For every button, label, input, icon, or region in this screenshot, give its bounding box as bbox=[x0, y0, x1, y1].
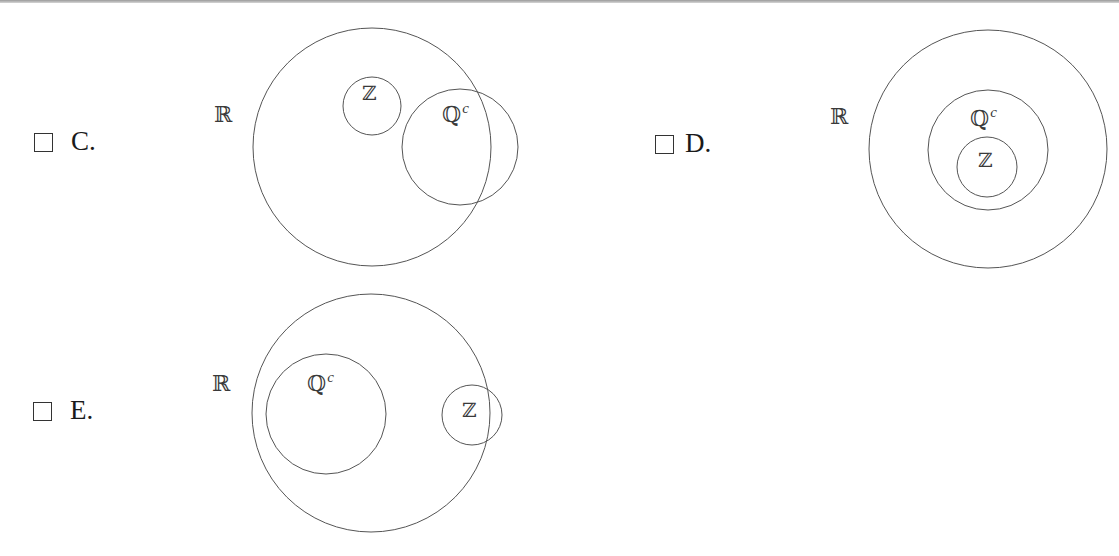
diagram-d-complement-superscript: c bbox=[990, 104, 997, 120]
diagram-c-real-label: ℝ bbox=[214, 104, 232, 126]
diagram-d-irrationals-label: ℚc bbox=[970, 108, 997, 130]
diagram-c-integers-label: ℤ bbox=[362, 83, 377, 103]
venn-diagrams bbox=[0, 0, 1119, 556]
diagram-c-irrationals-symbol: ℚ bbox=[442, 102, 461, 127]
option-d-checkbox[interactable] bbox=[655, 135, 674, 154]
diagram-e-real-label: ℝ bbox=[212, 373, 230, 395]
diagram-e-real-circle bbox=[252, 294, 490, 532]
option-c[interactable]: C. bbox=[34, 127, 96, 155]
diagram-c bbox=[253, 28, 518, 266]
option-e-label: E. bbox=[70, 397, 93, 424]
diagram-c-irrationals-label: ℚc bbox=[442, 104, 469, 126]
option-d-label: D. bbox=[685, 130, 711, 157]
diagram-c-complement-superscript: c bbox=[462, 100, 469, 116]
diagram-d-irrationals-symbol: ℚ bbox=[970, 106, 989, 131]
diagram-c-real-circle bbox=[253, 28, 491, 266]
diagram-e-irrationals-label: ℚc bbox=[307, 373, 334, 395]
option-c-checkbox[interactable] bbox=[34, 133, 53, 152]
diagram-e-integers-label: ℤ bbox=[462, 400, 477, 420]
option-e[interactable]: E. bbox=[33, 396, 93, 424]
diagram-e-complement-superscript: c bbox=[327, 369, 334, 385]
option-e-checkbox[interactable] bbox=[33, 402, 52, 421]
diagram-d-integers-label: ℤ bbox=[978, 150, 993, 170]
option-d[interactable]: D. bbox=[655, 129, 711, 157]
diagram-e-irrationals-symbol: ℚ bbox=[307, 371, 326, 396]
top-border-rule bbox=[0, 0, 1119, 3]
diagram-d-real-label: ℝ bbox=[830, 106, 848, 128]
option-c-label: C. bbox=[71, 128, 96, 155]
